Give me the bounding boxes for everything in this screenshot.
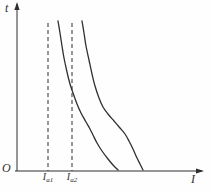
ref-line-label-1-sub: a1 — [46, 176, 53, 184]
y-axis-label: t — [5, 2, 8, 14]
chart-canvas — [0, 0, 210, 192]
ref-line-label-2-sub: a2 — [70, 176, 77, 184]
x-axis-label: I — [191, 173, 195, 185]
origin-label: O — [2, 162, 11, 174]
time-current-characteristic-figure: t I O Ia1 Ia2 — [0, 0, 210, 192]
ref-line-label-1: Ia1 — [43, 172, 53, 184]
ref-line-label-2: Ia2 — [67, 172, 77, 184]
